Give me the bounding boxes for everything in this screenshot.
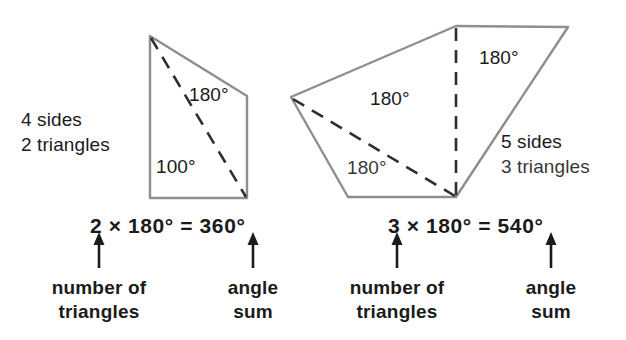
pentagon-angle-label-lower-left: 180°	[347, 157, 387, 179]
pentagon-angle-label-upper-right: 180°	[479, 47, 519, 69]
quadrilateral-triangles-line: 2 triangles	[21, 133, 110, 158]
left-caption-angle-sum: angle sum	[211, 276, 295, 325]
polygon-angle-sum-figure: 4 sides 2 triangles 180° 100° 180° 180° …	[0, 0, 626, 340]
quadrilateral-angle-label-bottom: 100°	[156, 156, 196, 178]
left-caption-angle-line1: angle	[211, 276, 295, 300]
right-caption-number-of-triangles: number of triangles	[337, 276, 457, 325]
left-caption-number-of-triangles: number of triangles	[39, 276, 159, 325]
left-caption-line2: triangles	[39, 300, 159, 324]
pentagon-angle-label-middle: 180°	[370, 88, 410, 110]
pentagon-side-info: 5 sides 3 triangles	[501, 130, 590, 179]
left-caption-line1: number of	[39, 276, 159, 300]
quadrilateral-side-info: 4 sides 2 triangles	[21, 108, 110, 157]
right-caption-line1: number of	[337, 276, 457, 300]
pentagon-triangles-line: 3 triangles	[501, 155, 590, 180]
right-caption-angle-line2: sum	[509, 300, 593, 324]
quadrilateral-sides-line: 4 sides	[21, 108, 110, 133]
pentagon-sides-line: 5 sides	[501, 130, 590, 155]
left-equation: 2 × 180° = 360°	[90, 214, 245, 239]
left-arrow-angle-sum	[248, 232, 259, 268]
right-arrow-angle-sum	[546, 232, 557, 268]
quadrilateral-angle-label-top: 180°	[189, 84, 229, 106]
left-caption-angle-line2: sum	[211, 300, 295, 324]
right-caption-angle-sum: angle sum	[509, 276, 593, 325]
right-caption-line2: triangles	[337, 300, 457, 324]
right-caption-angle-line1: angle	[509, 276, 593, 300]
right-equation: 3 × 180° = 540°	[388, 214, 543, 239]
